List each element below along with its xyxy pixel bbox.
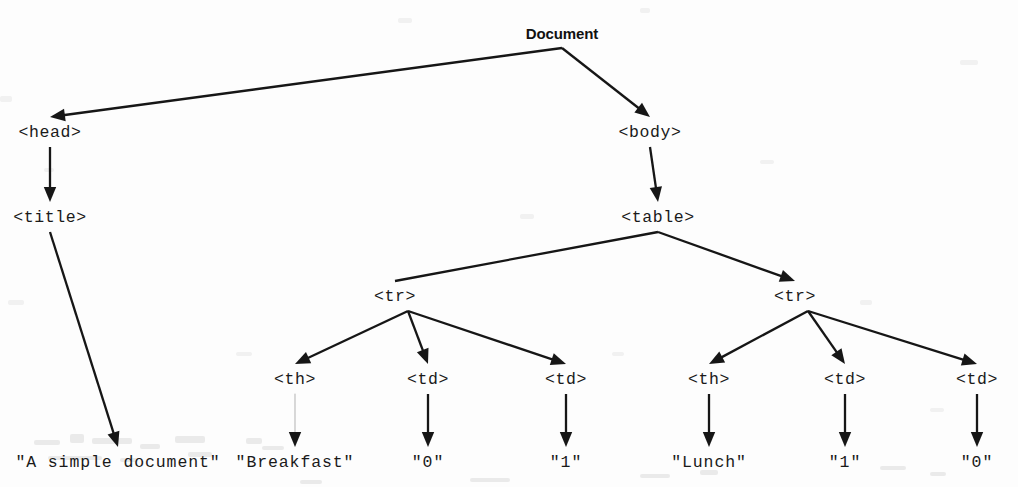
dom-tree-diagram: Document <head> <body> <title> <table> "…	[0, 0, 1018, 487]
node-text-row2-col1: "1"	[829, 455, 861, 472]
node-th-row1: <th>	[274, 372, 316, 389]
node-th-row2: <th>	[688, 372, 730, 389]
tree-edges	[0, 0, 1018, 487]
node-text-row1-col2: "1"	[550, 455, 582, 472]
node-tr-row2: <tr>	[774, 289, 816, 306]
node-text-row1-col1: "0"	[412, 455, 444, 472]
node-title: <title>	[13, 210, 87, 227]
node-head: <head>	[18, 125, 81, 142]
node-title-text: "A simple document"	[15, 455, 220, 472]
node-table: <table>	[621, 210, 695, 227]
node-text-lunch: "Lunch"	[671, 455, 747, 472]
node-text-breakfast: "Breakfast"	[236, 455, 355, 472]
node-td-row2-col2: <td>	[956, 372, 998, 389]
node-document: Document	[526, 26, 599, 41]
node-td-row2-col1: <td>	[824, 372, 866, 389]
node-body: <body>	[618, 125, 681, 142]
node-td-row1-col2: <td>	[545, 372, 587, 389]
node-td-row1-col1: <td>	[407, 372, 449, 389]
node-tr-row1: <tr>	[374, 289, 416, 306]
node-text-row2-col2: "0"	[961, 455, 993, 472]
